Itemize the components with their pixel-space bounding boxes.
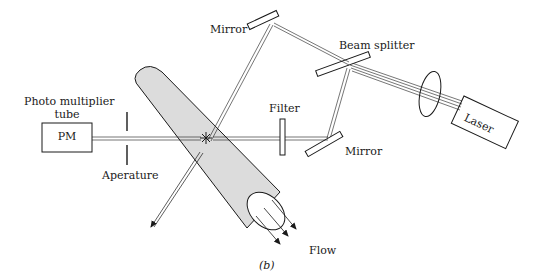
label-flow: Flow <box>309 245 336 256</box>
label-pm-title-line1: Photo multiplier <box>24 96 110 107</box>
filter <box>280 119 285 155</box>
label-pm-box: PM <box>42 131 92 142</box>
lens <box>415 69 444 118</box>
ldv-diagram: Mirror Beam splitter Laser Filter Mirror… <box>0 0 535 280</box>
label-aperture: Aperature <box>102 170 159 181</box>
beam-splitter-to-bottom-mirror <box>327 68 350 139</box>
label-mirror-top: Mirror <box>210 24 247 35</box>
mirror-bottom <box>305 131 343 156</box>
beam-top-mirror-to-point <box>208 24 273 141</box>
laser-beam <box>349 62 462 110</box>
label-beam-splitter: Beam splitter <box>339 40 414 51</box>
beam-bottom-mirror-to-point <box>213 137 328 140</box>
exit-beam-arrow <box>151 152 203 227</box>
label-filter: Filter <box>269 103 300 114</box>
beam-to-top-mirror <box>274 23 349 65</box>
beam-splitter <box>316 52 371 77</box>
figure-caption: (b) <box>259 260 275 271</box>
flow-tube <box>135 66 292 237</box>
mirror-top <box>247 11 279 30</box>
label-mirror-bottom: Mirror <box>345 146 382 157</box>
label-pm-title-line2: tube <box>24 109 110 120</box>
